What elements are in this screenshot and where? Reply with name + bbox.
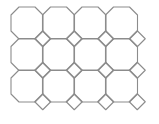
octagon-square-tiling xyxy=(0,0,159,124)
square-tile xyxy=(35,94,51,110)
octagon-tile xyxy=(106,7,138,39)
octagon-tile xyxy=(43,7,75,39)
octagons-group xyxy=(11,7,138,102)
octagon-tile xyxy=(74,7,106,39)
octagon-tile xyxy=(106,39,138,71)
octagon-tile xyxy=(43,70,75,102)
square-tile xyxy=(129,62,145,78)
square-tile xyxy=(66,31,82,47)
octagon-tile xyxy=(11,39,43,71)
square-tile xyxy=(98,62,114,78)
square-tile xyxy=(98,94,114,110)
square-tile xyxy=(35,31,51,47)
square-tile xyxy=(35,62,51,78)
square-tile xyxy=(129,31,145,47)
octagon-tile xyxy=(106,70,138,102)
square-tile xyxy=(129,94,145,110)
octagon-tile xyxy=(74,70,106,102)
octagon-tile xyxy=(43,39,75,71)
square-tile xyxy=(66,94,82,110)
octagon-tile xyxy=(74,39,106,71)
octagon-tile xyxy=(11,7,43,39)
square-tile xyxy=(66,62,82,78)
octagon-tile xyxy=(11,70,43,102)
square-tile xyxy=(98,31,114,47)
